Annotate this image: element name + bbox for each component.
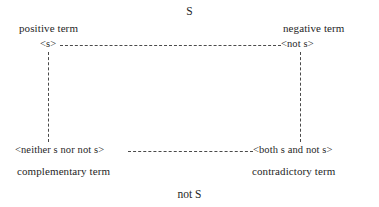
diagram-top-axis-label: S xyxy=(0,5,379,18)
left-vertical-connector xyxy=(48,52,49,142)
negative-term-label: negative term xyxy=(283,22,344,35)
node-neither-s-nor-not-s: <neither s nor not s> xyxy=(15,144,104,156)
node-not-s: <not s> xyxy=(281,38,314,50)
semiotic-square-diagram: S positive term negative term <s> <not s… xyxy=(0,0,379,207)
top-horizontal-connector xyxy=(60,45,281,46)
node-both-s-and-not-s: <both s and not s> xyxy=(253,144,333,156)
bottom-horizontal-connector xyxy=(128,151,253,152)
right-vertical-connector xyxy=(300,52,301,142)
contradictory-term-label: contradictory term xyxy=(252,165,335,178)
complementary-term-label: complementary term xyxy=(17,165,110,178)
positive-term-label: positive term xyxy=(19,22,78,35)
node-s: <s> xyxy=(40,38,56,50)
diagram-bottom-axis-label: not S xyxy=(0,188,379,201)
